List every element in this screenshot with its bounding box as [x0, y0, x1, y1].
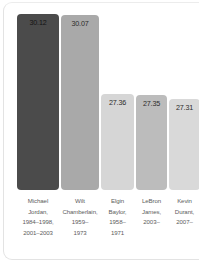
category-label-line: 1958–	[99, 217, 136, 228]
category-label-lebron-james: LeBron James, 2003–	[133, 196, 170, 228]
bar-elgin-baylor[interactable]	[101, 94, 134, 190]
bar-value-michael-jordan: 30.12	[17, 18, 59, 27]
bar-value-elgin-baylor: 27.36	[101, 98, 134, 107]
bar-group-elgin-baylor[interactable]: 27.36	[101, 78, 134, 190]
category-label-line: 2007–	[166, 217, 199, 228]
bar-value-lebron-james: 27.35	[136, 99, 167, 108]
bar-kevin-durant[interactable]	[169, 99, 199, 190]
category-label-wilt-chamberlain: Wilt Chamberlain, 1959– 1973	[55, 196, 105, 238]
category-label-line: James,	[133, 207, 170, 218]
category-label-line: 1971	[99, 228, 136, 239]
bar-group-wilt-chamberlain[interactable]: 30.07	[61, 78, 99, 190]
category-label-line: 1959–	[55, 217, 105, 228]
bar-value-kevin-durant: 27.31	[169, 103, 199, 112]
bar-wilt-chamberlain[interactable]	[61, 15, 99, 190]
category-label-kevin-durant: Kevin Durant, 2007–	[166, 196, 199, 228]
category-label-elgin-baylor: Elgin Baylor, 1958– 1971	[99, 196, 136, 238]
category-label-line: 2003–	[133, 217, 170, 228]
category-label-line: Baylor,	[99, 207, 136, 218]
bar-value-wilt-chamberlain: 30.07	[61, 19, 99, 28]
bar-group-kevin-durant[interactable]: 27.31	[169, 78, 199, 190]
bar-group-lebron-james[interactable]: 27.35	[136, 78, 167, 190]
bar-lebron-james[interactable]	[136, 95, 167, 190]
category-label-line: Elgin	[99, 196, 136, 207]
category-label-line: Chamberlain,	[55, 207, 105, 218]
category-label-line: Kevin	[166, 196, 199, 207]
bar-group-michael-jordan[interactable]: 30.12	[17, 78, 59, 190]
bar-michael-jordan[interactable]	[17, 14, 59, 190]
bar-chart-plot-area: 30.12 30.07 27.36 27.35 27.31 Michael Jo…	[0, 0, 199, 268]
category-label-line: Wilt	[55, 196, 105, 207]
category-label-line: LeBron	[133, 196, 170, 207]
category-label-line: 1973	[55, 228, 105, 239]
category-label-line: Durant,	[166, 207, 199, 218]
